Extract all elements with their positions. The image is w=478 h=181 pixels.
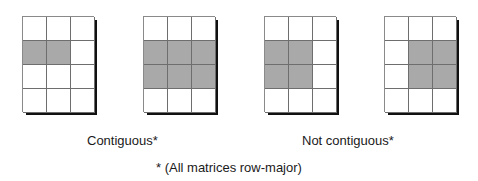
matrix-cell-filled: [409, 41, 433, 65]
matrix-cell: [71, 17, 95, 41]
matrix-cell-filled: [192, 65, 216, 89]
matrix-cell-filled: [289, 41, 313, 65]
matrix-cell: [71, 65, 95, 89]
matrix-cell: [433, 89, 457, 113]
matrix-cell: [409, 17, 433, 41]
matrix-cell-filled: [433, 65, 457, 89]
matrix-cell: [385, 41, 409, 65]
matrix-grid: [384, 16, 456, 112]
matrix-cell-filled: [265, 65, 289, 89]
matrix-cell: [409, 89, 433, 113]
matrix-cell: [192, 89, 216, 113]
matrix-grid: [264, 16, 336, 112]
matrix-cell-filled: [192, 41, 216, 65]
matrix-cell-filled: [23, 41, 47, 65]
matrix-cell: [192, 17, 216, 41]
footnote: * (All matrices row-major): [156, 160, 302, 175]
matrix-cell: [385, 65, 409, 89]
matrix-3: [264, 16, 336, 112]
matrix-cell-filled: [409, 65, 433, 89]
matrix-cell: [23, 65, 47, 89]
matrix-cell: [168, 89, 192, 113]
matrix-cell: [313, 41, 337, 65]
matrix-cell: [289, 17, 313, 41]
matrix-cell: [313, 89, 337, 113]
matrix-cell: [385, 89, 409, 113]
matrix-cell: [313, 65, 337, 89]
contiguous-label: Contiguous*: [87, 133, 158, 148]
matrix-cell-filled: [289, 65, 313, 89]
matrix-cell: [144, 89, 168, 113]
matrix-cell: [71, 41, 95, 65]
matrix-cell-filled: [265, 41, 289, 65]
matrix-cell: [168, 17, 192, 41]
matrix-cell: [289, 89, 313, 113]
matrix-cell-filled: [144, 41, 168, 65]
matrix-cell: [71, 89, 95, 113]
matrix-grid: [22, 16, 94, 112]
matrix-cell: [385, 17, 409, 41]
matrix-cell-filled: [433, 41, 457, 65]
matrix-cell: [313, 17, 337, 41]
matrix-cell: [144, 17, 168, 41]
matrix-cell: [265, 17, 289, 41]
matrix-cell-filled: [168, 65, 192, 89]
not-contiguous-label: Not contiguous*: [302, 133, 394, 148]
matrix-cell: [47, 65, 71, 89]
matrix-cell: [23, 17, 47, 41]
matrix-cell-filled: [144, 65, 168, 89]
matrix-cell: [47, 89, 71, 113]
matrix-grid: [143, 16, 215, 112]
matrix-cell: [47, 17, 71, 41]
matrix-cell: [265, 89, 289, 113]
matrix-cell-filled: [47, 41, 71, 65]
matrix-cell: [23, 89, 47, 113]
matrix-1: [22, 16, 94, 112]
matrix-cell: [433, 17, 457, 41]
matrix-2: [143, 16, 215, 112]
matrix-4: [384, 16, 456, 112]
matrix-cell-filled: [168, 41, 192, 65]
